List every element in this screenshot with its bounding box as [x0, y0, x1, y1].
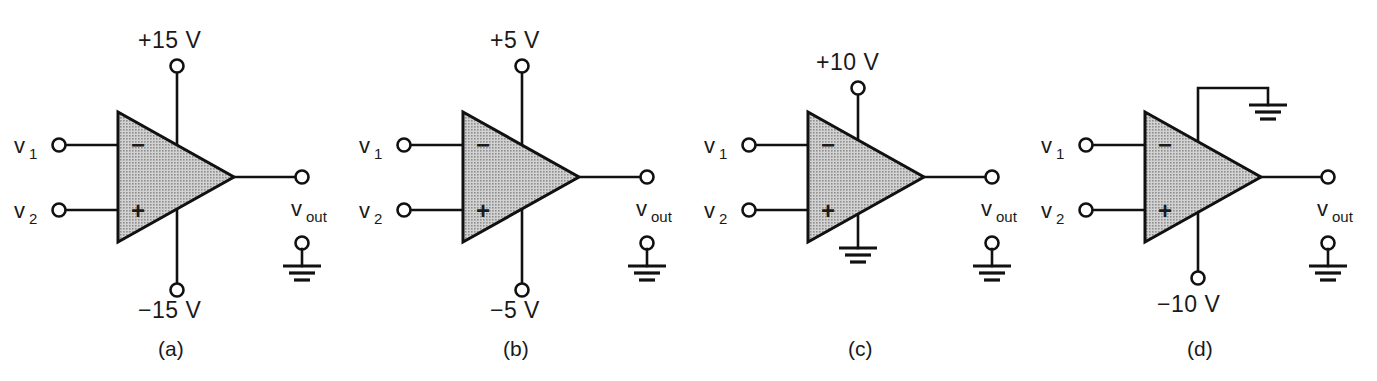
top-rail-label: +10 V: [816, 49, 879, 75]
output-label: v: [636, 196, 647, 221]
input2-wire: [398, 204, 473, 217]
bottom-rail-label: −15 V: [138, 297, 201, 323]
opamp-supply-figure: − + v 1 v 2 v out +15 V −15 V (a): [0, 0, 1377, 381]
output-terminal-icon[interactable]: [641, 171, 654, 184]
input2-sublabel: 2: [1056, 210, 1064, 227]
input1-wire: [1080, 139, 1149, 152]
panel-b: − + v 1 v 2 v out +5 V −5 V (b): [345, 0, 690, 381]
panel-caption: (c): [848, 337, 873, 360]
input1-sublabel: 1: [29, 145, 37, 162]
input1-wire: [53, 139, 128, 152]
input1-terminal-icon[interactable]: [53, 139, 66, 152]
output-ground-icon: [283, 237, 321, 281]
input1-label: v: [704, 133, 715, 158]
bottom-rail-terminal-icon[interactable]: [1192, 272, 1205, 285]
top-rail-terminal-icon[interactable]: [171, 60, 184, 73]
input1-terminal-icon[interactable]: [398, 139, 411, 152]
output-label: v: [981, 196, 992, 221]
panel-c-schematic: − + v 1 v 2 v out +10 V (c): [690, 0, 1035, 381]
panel-a-schematic: − + v 1 v 2 v out +15 V −15 V (a): [0, 0, 345, 381]
output-wire: [577, 171, 654, 184]
input2-wire: [1080, 204, 1149, 217]
top-rail-wire: [171, 60, 184, 149]
output-sublabel: out: [1332, 208, 1354, 225]
inverting-input-sign: −: [131, 131, 145, 158]
top-rail-label: +5 V: [490, 27, 540, 53]
output-sublabel: out: [996, 208, 1018, 225]
input1-terminal-icon[interactable]: [743, 139, 756, 152]
output-ground-icon: [973, 237, 1011, 281]
input1-label: v: [1041, 133, 1052, 158]
input2-sublabel: 2: [374, 210, 382, 227]
input2-wire: [743, 204, 818, 217]
panel-d: − + v 1 v 2 v out −10 V (d): [1035, 0, 1377, 381]
input2-sublabel: 2: [29, 210, 37, 227]
output-wire: [232, 171, 309, 184]
bottom-rail-label: −10 V: [1157, 291, 1220, 317]
input1-wire: [743, 139, 818, 152]
input2-terminal-icon[interactable]: [743, 204, 756, 217]
output-label: v: [1317, 196, 1328, 221]
input2-label: v: [359, 198, 370, 223]
input1-sublabel: 1: [374, 145, 382, 162]
bottom-rail-terminal-icon[interactable]: [516, 284, 529, 297]
top-rail-label: +15 V: [138, 27, 201, 53]
input1-label: v: [14, 133, 25, 158]
noninverting-input-sign: +: [821, 197, 835, 224]
panel-c: − + v 1 v 2 v out +10 V (c): [690, 0, 1035, 381]
output-terminal-icon[interactable]: [296, 171, 309, 184]
bottom-rail-wire: [1192, 207, 1205, 285]
panel-caption: (d): [1187, 337, 1213, 360]
noninverting-input-sign: +: [131, 197, 145, 224]
input2-sublabel: 2: [719, 210, 727, 227]
top-rail-wire: [516, 60, 529, 149]
input2-label: v: [1041, 198, 1052, 223]
panel-d-schematic: − + v 1 v 2 v out −10 V (d): [1035, 0, 1377, 381]
top-rail-terminal-icon[interactable]: [516, 60, 529, 73]
bottom-rail-label: −5 V: [490, 297, 540, 323]
input1-terminal-icon[interactable]: [1080, 139, 1093, 152]
output-ground-icon: [628, 237, 666, 281]
input2-label: v: [14, 198, 25, 223]
input2-wire: [53, 204, 128, 217]
input1-label: v: [359, 133, 370, 158]
output-terminal-icon[interactable]: [1322, 171, 1335, 184]
output-sublabel: out: [651, 208, 673, 225]
input2-terminal-icon[interactable]: [1080, 204, 1093, 217]
output-sublabel: out: [306, 208, 328, 225]
input2-label: v: [704, 198, 715, 223]
output-label: v: [291, 196, 302, 221]
noninverting-input-sign: +: [1158, 197, 1172, 224]
panel-caption: (b): [503, 337, 529, 360]
noninverting-input-sign: +: [476, 197, 490, 224]
output-terminal-icon[interactable]: [986, 171, 999, 184]
input1-sublabel: 1: [719, 145, 727, 162]
top-rail-terminal-icon[interactable]: [852, 82, 865, 95]
bottom-rail-wire: [171, 207, 184, 297]
input2-terminal-icon[interactable]: [53, 204, 66, 217]
input1-sublabel: 1: [1056, 145, 1064, 162]
inverting-input-sign: −: [821, 131, 835, 158]
bottom-rail-terminal-icon[interactable]: [171, 284, 184, 297]
output-ground-icon: [1309, 237, 1347, 281]
panel-caption: (a): [158, 337, 184, 360]
bottom-rail-wire: [516, 207, 529, 297]
top-rail-ground-elbow: [1198, 88, 1287, 148]
panel-a: − + v 1 v 2 v out +15 V −15 V (a): [0, 0, 345, 381]
output-wire: [922, 171, 999, 184]
inverting-input-sign: −: [1158, 131, 1172, 158]
input2-terminal-icon[interactable]: [398, 204, 411, 217]
panel-b-schematic: − + v 1 v 2 v out +5 V −5 V (b): [345, 0, 690, 381]
input1-wire: [398, 139, 473, 152]
output-wire: [1259, 171, 1335, 184]
inverting-input-sign: −: [476, 131, 490, 158]
